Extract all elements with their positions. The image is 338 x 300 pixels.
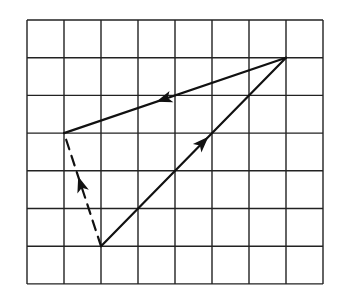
vector-a [101, 58, 286, 247]
vector-grid-figure [0, 0, 338, 300]
vector-diagram [0, 0, 338, 300]
vector-resultant [64, 133, 101, 246]
vector-resultant-line [64, 133, 101, 246]
vector-a-line [101, 58, 286, 247]
